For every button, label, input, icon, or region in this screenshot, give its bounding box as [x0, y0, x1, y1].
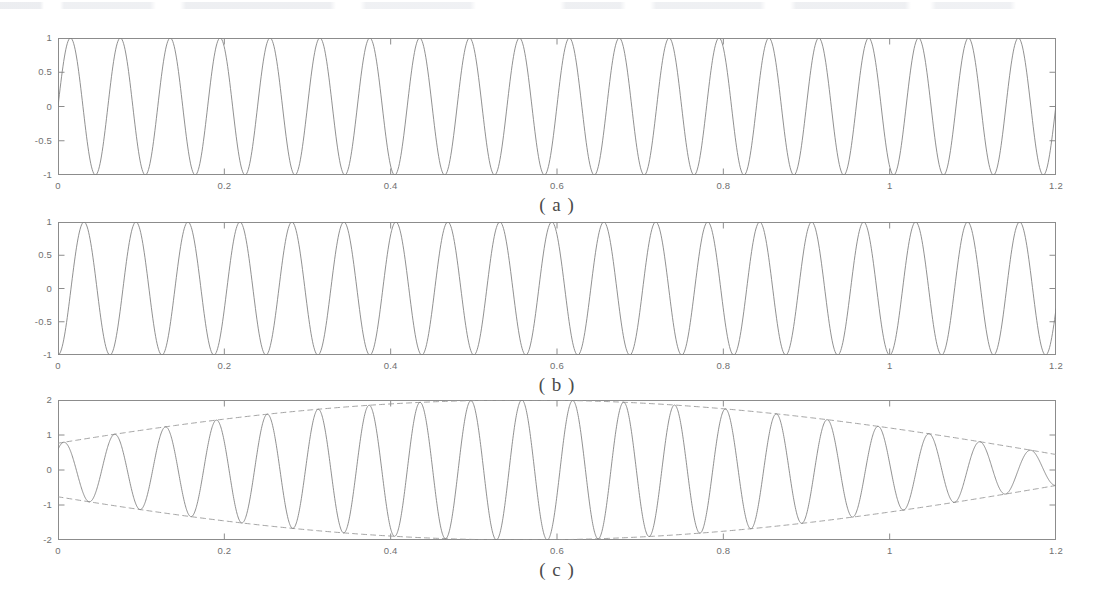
ytick-label-a: 0	[10, 101, 52, 112]
ytick-label-c: -2	[10, 534, 52, 545]
panel-caption-b: ( b )	[58, 374, 1056, 396]
xtick-label-a: 1	[870, 180, 910, 191]
ytick-label-a: -0.5	[10, 135, 52, 146]
ytick-label-a: 1	[10, 32, 52, 43]
xtick-label-a: 0.8	[703, 180, 743, 191]
xtick-label-b: 0.6	[537, 360, 577, 371]
xtick-label-a: 1.2	[1036, 180, 1076, 191]
ytick-label-b: -1	[10, 349, 52, 360]
xtick-label-c: 0.2	[204, 545, 244, 556]
ytick-label-c: 0	[10, 464, 52, 475]
xtick-label-c: 1	[870, 545, 910, 556]
ytick-label-c: 1	[10, 429, 52, 440]
xtick-label-a: 0.6	[537, 180, 577, 191]
ytick-label-b: -0.5	[10, 316, 52, 327]
plot-panel-a	[58, 38, 1056, 175]
plot-panel-b	[58, 222, 1056, 355]
xtick-label-b: 0.4	[371, 360, 411, 371]
waveform-a	[58, 38, 1056, 175]
ytick-label-b: 1	[10, 216, 52, 227]
ytick-label-a: -1	[10, 169, 52, 180]
xtick-label-b: 0.8	[703, 360, 743, 371]
waveform-b	[58, 222, 1056, 355]
xtick-label-c: 0.4	[371, 545, 411, 556]
figure-canvas: -1-0.500.5100.20.40.60.811.2( a )-1-0.50…	[0, 0, 1095, 590]
waveform-c-beat	[58, 400, 1056, 540]
xtick-label-c: 0.6	[537, 545, 577, 556]
xtick-label-b: 1	[870, 360, 910, 371]
xtick-label-c: 0	[38, 545, 78, 556]
xtick-label-b: 1.2	[1036, 360, 1076, 371]
xtick-label-a: 0	[38, 180, 78, 191]
xtick-label-a: 0.4	[371, 180, 411, 191]
plot-box-c	[59, 401, 1056, 540]
ytick-label-b: 0	[10, 283, 52, 294]
ytick-label-b: 0.5	[10, 249, 52, 260]
ytick-label-c: 2	[10, 394, 52, 405]
xtick-label-a: 0.2	[204, 180, 244, 191]
panel-caption-a: ( a )	[58, 194, 1056, 216]
plot-box-b	[59, 223, 1056, 355]
xtick-label-c: 0.8	[703, 545, 743, 556]
xtick-label-b: 0.2	[204, 360, 244, 371]
xtick-label-c: 1.2	[1036, 545, 1076, 556]
ytick-label-c: -1	[10, 499, 52, 510]
panel-caption-c: ( c )	[58, 559, 1056, 581]
page-edge-artifact	[0, 2, 1095, 9]
xtick-label-b: 0	[38, 360, 78, 371]
plot-panel-c	[58, 400, 1056, 540]
ytick-label-a: 0.5	[10, 66, 52, 77]
